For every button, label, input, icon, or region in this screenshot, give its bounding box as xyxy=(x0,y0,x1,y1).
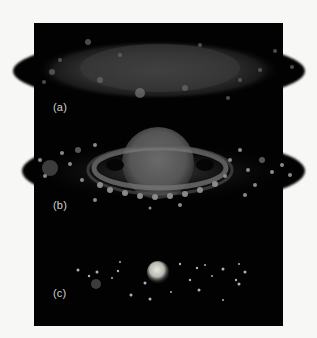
stage-c-label: (c) xyxy=(53,287,66,299)
stage-a-label: (a) xyxy=(53,101,67,113)
stage-a-disk xyxy=(0,0,317,338)
stage-b-label: (b) xyxy=(53,199,67,211)
figure: (a) (b) (c) xyxy=(0,0,317,338)
